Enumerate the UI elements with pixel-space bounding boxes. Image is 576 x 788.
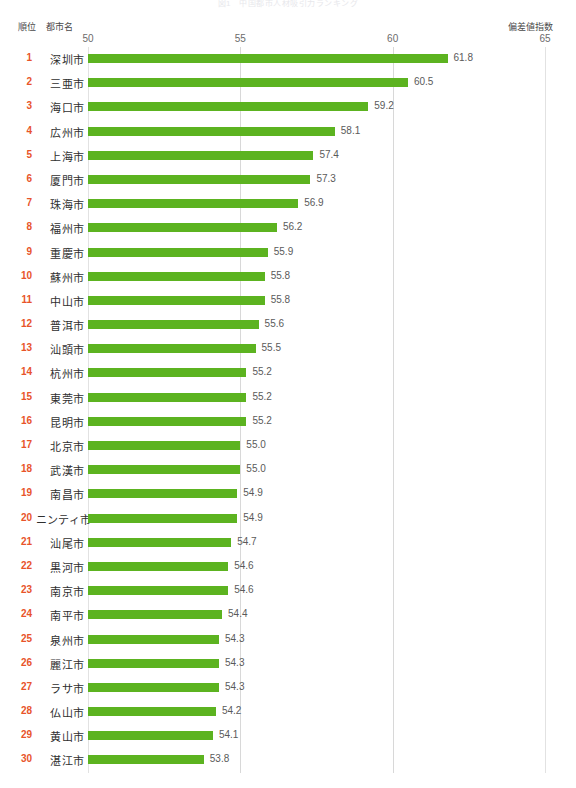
city-name: ラサ市 xyxy=(36,680,84,696)
bar xyxy=(88,562,228,571)
bar-rows: 1深圳市61.82三亜市60.53海口市59.24広州市58.15上海市57.4… xyxy=(0,47,576,773)
bar-value-label: 57.4 xyxy=(319,149,338,160)
bar-value-label: 55.6 xyxy=(265,318,284,329)
table-row: 6厦門市57.3 xyxy=(0,168,576,192)
rank-value: 12 xyxy=(0,318,32,329)
rank-value: 11 xyxy=(0,294,32,305)
city-name: 黒河市 xyxy=(36,559,84,575)
city-name: 珠海市 xyxy=(36,196,84,212)
bar xyxy=(88,272,265,281)
bar-value-label: 55.2 xyxy=(252,391,271,402)
bar-value-label: 54.6 xyxy=(234,584,253,595)
bar xyxy=(88,151,313,160)
city-name: 湛江市 xyxy=(36,752,84,768)
city-name: 厦門市 xyxy=(36,172,84,188)
table-row: 22黒河市54.6 xyxy=(0,555,576,579)
rank-value: 30 xyxy=(0,753,32,764)
bar-value-label: 55.2 xyxy=(252,366,271,377)
table-row: 28仏山市54.2 xyxy=(0,700,576,724)
bar-value-label: 54.4 xyxy=(228,608,247,619)
city-name: 広州市 xyxy=(36,124,84,140)
table-row: 18武漢市55.0 xyxy=(0,458,576,482)
bar-value-label: 54.2 xyxy=(222,705,241,716)
bar xyxy=(88,175,310,184)
bar xyxy=(88,610,222,619)
bar-value-label: 55.5 xyxy=(262,342,281,353)
table-row: 12普洱市55.6 xyxy=(0,313,576,337)
table-row: 10蘇州市55.8 xyxy=(0,265,576,289)
city-name: 福州市 xyxy=(36,220,84,236)
bar-value-label: 55.2 xyxy=(252,415,271,426)
table-row: 1深圳市61.8 xyxy=(0,47,576,71)
rank-value: 14 xyxy=(0,366,32,377)
table-row: 11中山市55.8 xyxy=(0,289,576,313)
bar-value-label: 54.6 xyxy=(234,560,253,571)
bar xyxy=(88,320,259,329)
city-name: 昆明市 xyxy=(36,414,84,430)
rank-value: 28 xyxy=(0,705,32,716)
rank-value: 6 xyxy=(0,173,32,184)
bar xyxy=(88,707,216,716)
city-name: 海口市 xyxy=(36,99,84,115)
bar-value-label: 55.8 xyxy=(271,294,290,305)
table-row: 20ニンティ市54.9 xyxy=(0,507,576,531)
table-row: 9重慶市55.9 xyxy=(0,241,576,265)
bar xyxy=(88,514,237,523)
bar xyxy=(88,465,240,474)
city-name: 黄山市 xyxy=(36,728,84,744)
rank-value: 13 xyxy=(0,342,32,353)
bar xyxy=(88,78,408,87)
city-name: 蘇州市 xyxy=(36,269,84,285)
city-name: 汕尾市 xyxy=(36,535,84,551)
bar-value-label: 55.0 xyxy=(246,439,265,450)
city-name: 武漢市 xyxy=(36,462,84,478)
city-name: ニンティ市 xyxy=(36,511,84,527)
city-name: 深圳市 xyxy=(36,51,84,67)
bar xyxy=(88,127,335,136)
bar xyxy=(88,441,240,450)
chart-title: 図1 中国都市人材吸引力ランキング xyxy=(0,0,576,8)
bar-value-label: 55.8 xyxy=(271,270,290,281)
rank-value: 8 xyxy=(0,221,32,232)
table-row: 17北京市55.0 xyxy=(0,434,576,458)
rank-value: 3 xyxy=(0,100,32,111)
rank-value: 27 xyxy=(0,681,32,692)
table-row: 23南京市54.6 xyxy=(0,579,576,603)
rank-value: 23 xyxy=(0,584,32,595)
city-name: 東莞市 xyxy=(36,390,84,406)
rank-value: 9 xyxy=(0,246,32,257)
x-axis-tick-60: 60 xyxy=(387,33,398,44)
rank-value: 5 xyxy=(0,149,32,160)
bar-value-label: 59.2 xyxy=(374,100,393,111)
bar xyxy=(88,417,246,426)
bar-value-label: 54.3 xyxy=(225,633,244,644)
bar xyxy=(88,223,277,232)
city-name: 南昌市 xyxy=(36,486,84,502)
rank-value: 17 xyxy=(0,439,32,450)
bar xyxy=(88,344,256,353)
city-name: 麗江市 xyxy=(36,656,84,672)
bar-value-label: 54.9 xyxy=(243,487,262,498)
table-row: 13汕頭市55.5 xyxy=(0,337,576,361)
bar xyxy=(88,755,204,764)
bar-value-label: 54.3 xyxy=(225,657,244,668)
city-name: 北京市 xyxy=(36,438,84,454)
bar-value-label: 57.3 xyxy=(316,173,335,184)
bar-value-label: 55.9 xyxy=(274,246,293,257)
city-name: 仏山市 xyxy=(36,704,84,720)
bar-chart: 図1 中国都市人材吸引力ランキング 順位 都市名 偏差値指数 50556065 … xyxy=(0,0,576,788)
rank-value: 4 xyxy=(0,125,32,136)
table-row: 26麗江市54.3 xyxy=(0,652,576,676)
bar xyxy=(88,102,368,111)
city-name: 汕頭市 xyxy=(36,341,84,357)
rank-value: 26 xyxy=(0,657,32,668)
x-axis-tick-50: 50 xyxy=(82,33,93,44)
column-header-rank: 順位 xyxy=(18,20,36,33)
bar xyxy=(88,731,213,740)
bar-value-label: 58.1 xyxy=(341,125,360,136)
x-axis-tick-65: 65 xyxy=(539,33,550,44)
city-name: 普洱市 xyxy=(36,317,84,333)
bar xyxy=(88,296,265,305)
city-name: 南京市 xyxy=(36,583,84,599)
bar xyxy=(88,538,231,547)
